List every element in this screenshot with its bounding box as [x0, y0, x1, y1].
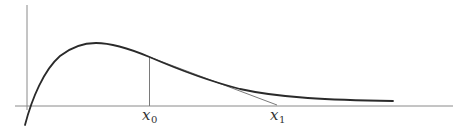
x0-label: x 0 — [142, 106, 157, 125]
svg-text:x: x — [142, 106, 151, 124]
newton-method-diagram: x 0 x 1 — [0, 0, 467, 137]
svg-text:x: x — [270, 106, 279, 124]
svg-text:0: 0 — [151, 114, 157, 125]
function-curve — [25, 43, 393, 125]
x1-label: x 1 — [270, 106, 285, 125]
svg-text:1: 1 — [279, 114, 285, 125]
